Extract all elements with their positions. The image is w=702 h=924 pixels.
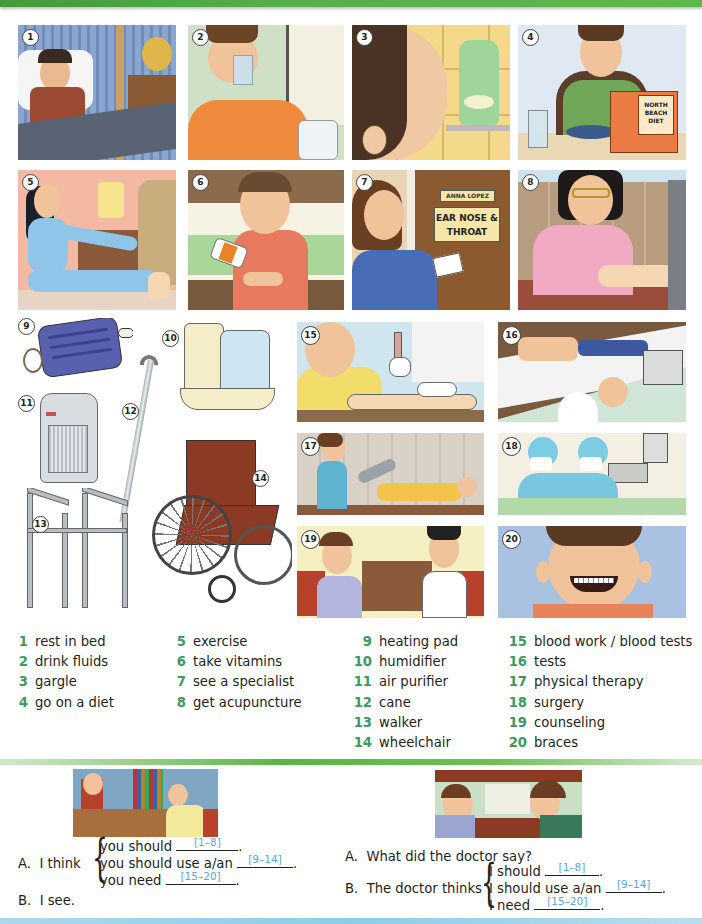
item-heating-pad: 9	[18, 318, 133, 388]
panel-number: 19	[301, 530, 320, 549]
vocab-column-2: 5exercise 6take vitamins 7see a speciali…	[176, 632, 302, 713]
section-divider	[0, 759, 702, 765]
item-number: 12	[122, 403, 139, 420]
panel-exercise: 5	[18, 170, 176, 310]
vocab-item: 9heating pad	[352, 632, 458, 652]
panel-number: 20	[502, 530, 521, 549]
vocab-item: 14wheelchair	[352, 733, 458, 753]
panel-tests: 16	[498, 322, 686, 422]
panel-number: 1	[22, 29, 39, 46]
question-text: What did the doctor say?	[366, 849, 532, 864]
panel-braces: 20	[498, 526, 686, 618]
answer-blank[interactable]: [1–8]	[176, 838, 238, 851]
panel-number: 3	[356, 29, 373, 46]
panel-rest-in-bed: 1	[18, 25, 176, 160]
i-see-text: I see.	[40, 893, 75, 908]
panel-go-on-a-diet: NORTH BEACH DIET 4	[518, 25, 686, 160]
item-walker: 13	[22, 488, 142, 616]
panel-number: 2	[192, 29, 209, 46]
illustration-car	[435, 770, 582, 838]
book-title: NORTH BEACH DIET	[638, 95, 674, 135]
panel-surgery: 18	[498, 433, 686, 515]
vocab-item: 8get acupuncture	[176, 693, 302, 713]
panel-get-acupuncture: 8	[518, 170, 686, 310]
item-number: 9	[18, 318, 35, 335]
panel-number: 7	[356, 174, 373, 191]
vocab-item: 5exercise	[176, 632, 302, 652]
vocab-item: 13walker	[352, 713, 458, 733]
vocab-column-4: 15blood work / blood tests 16tests 17phy…	[507, 632, 692, 753]
panel-see-a-specialist: ANNA LOPEZ EAR NOSE & THROAT 7	[352, 170, 510, 310]
vocab-item: 15blood work / blood tests	[507, 632, 692, 652]
vocab-item: 12cane	[352, 693, 458, 713]
vocab-item: 3gargle	[18, 672, 114, 692]
speaker-a: A.	[345, 849, 358, 864]
footer-bar	[0, 918, 702, 924]
speaker-b: B.	[18, 893, 31, 908]
answer-blank[interactable]: [9–14]	[237, 855, 293, 868]
panel-number: 18	[502, 437, 521, 456]
answer-blank[interactable]: [15–20]	[534, 897, 600, 910]
speaker-a: A.	[18, 856, 31, 871]
panel-drink-fluids: 2	[188, 25, 344, 160]
name-plate: ANNA LOPEZ	[440, 190, 495, 202]
header-bar	[0, 0, 702, 7]
vocab-item: 19counseling	[507, 713, 692, 733]
panel-number: 16	[502, 326, 521, 345]
panel-take-vitamins: 6	[188, 170, 344, 310]
item-humidifier: 10	[160, 318, 290, 413]
vocab-column-3: 9heating pad 10humidifier 11air purifier…	[352, 632, 458, 753]
panel-gargle: 3	[352, 25, 510, 160]
panel-number: 4	[522, 29, 539, 46]
panel-blood-work: 15	[297, 322, 484, 422]
speaker-b: B.	[345, 881, 358, 896]
answer-blank[interactable]: [9–14]	[606, 880, 662, 893]
answer-blank[interactable]: [1–8]	[545, 863, 599, 876]
answer-blank[interactable]: [15–20]	[166, 872, 236, 885]
i-think-text: I think	[39, 856, 80, 871]
item-number: 10	[162, 330, 179, 347]
vocab-item: 18surgery	[507, 693, 692, 713]
vocab-item: 10humidifier	[352, 652, 458, 672]
panel-number: 5	[22, 174, 39, 191]
panel-number: 15	[301, 326, 320, 345]
panel-counseling: 19	[297, 526, 484, 618]
panel-physical-therapy: 17	[297, 433, 484, 515]
vocab-item: 6take vitamins	[176, 652, 302, 672]
door-sign: EAR NOSE & THROAT	[434, 207, 500, 242]
vocab-item: 4go on a diet	[18, 693, 114, 713]
panel-number: 17	[301, 437, 320, 456]
vocab-item: 7see a specialist	[176, 672, 302, 692]
vocab-column-1: 1rest in bed 2drink fluids 3gargle 4go o…	[18, 632, 114, 713]
vocab-item: 11air purifier	[352, 672, 458, 692]
vocab-item: 20braces	[507, 733, 692, 753]
panel-number: 8	[522, 174, 539, 191]
vocab-item: 2drink fluids	[18, 652, 114, 672]
panel-number: 6	[192, 174, 209, 191]
vocab-item: 1rest in bed	[18, 632, 114, 652]
item-wheelchair: 14	[150, 435, 292, 615]
vocab-item: 16tests	[507, 652, 692, 672]
item-number: 14	[252, 470, 269, 487]
item-number: 11	[18, 395, 35, 412]
item-number: 13	[32, 516, 49, 533]
vocab-item: 17physical therapy	[507, 672, 692, 692]
illustration-doctor-office	[73, 769, 218, 837]
item-air-purifier: 11	[18, 390, 103, 490]
doctor-thinks-text: The doctor thinks	[367, 881, 482, 896]
